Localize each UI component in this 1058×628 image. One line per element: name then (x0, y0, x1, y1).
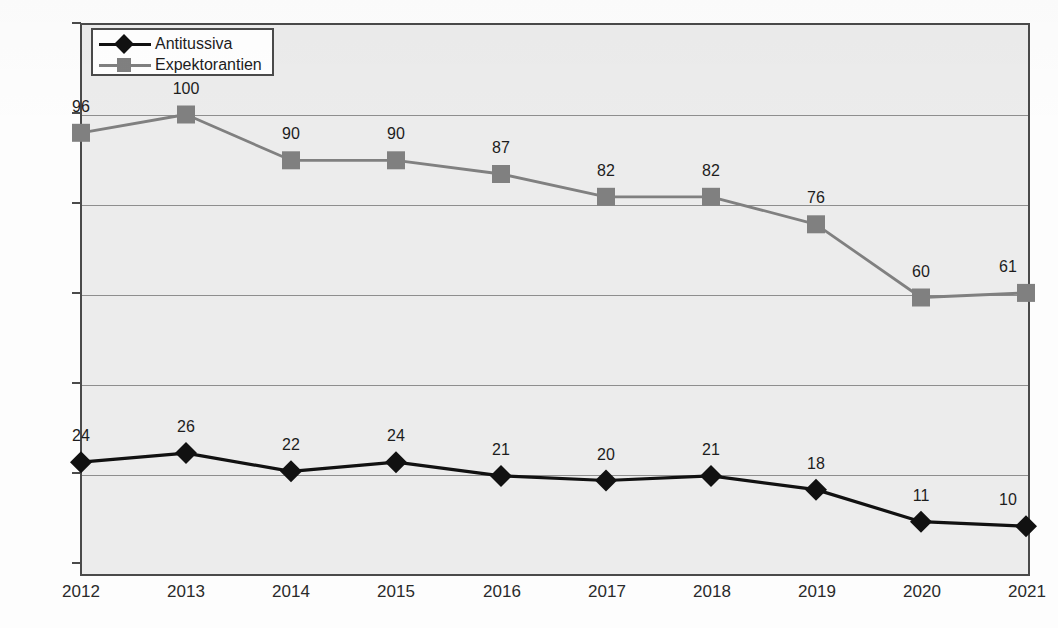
data-value-label: 24 (41, 428, 121, 444)
data-value-label: 76 (776, 190, 856, 206)
legend-swatch-antitussiva (99, 34, 151, 54)
data-value-label: 82 (671, 163, 751, 179)
square-marker-icon[interactable] (282, 151, 300, 169)
square-marker-icon[interactable] (702, 188, 720, 206)
data-value-label: 24 (356, 428, 436, 444)
data-value-label: 22 (251, 437, 331, 453)
square-marker-icon[interactable] (387, 151, 405, 169)
diamond-marker-icon[interactable] (175, 442, 197, 464)
square-marker-icon[interactable] (912, 289, 930, 307)
diamond-marker-icon[interactable] (385, 451, 407, 473)
square-marker-icon[interactable] (807, 215, 825, 233)
data-value-label: 60 (881, 264, 961, 280)
diamond-marker-icon[interactable] (280, 460, 302, 482)
data-value-label: 96 (41, 99, 121, 115)
data-value-label: 82 (566, 163, 646, 179)
diamond-marker-icon[interactable] (490, 465, 512, 487)
legend-label-antitussiva: Antitussiva (151, 36, 232, 52)
data-value-label: 87 (461, 140, 541, 156)
square-marker-icon[interactable] (492, 165, 510, 183)
legend: Antitussiva Expektorantien (91, 28, 274, 76)
diamond-marker-icon[interactable] (1015, 515, 1037, 537)
data-value-label: 100 (146, 81, 226, 97)
legend-swatch-expektorantien (99, 55, 151, 75)
square-marker-icon[interactable] (1017, 284, 1035, 302)
diamond-marker-icon[interactable] (910, 511, 932, 533)
square-marker-icon (117, 58, 131, 72)
data-value-label: 90 (251, 126, 331, 142)
data-value-label: 10 (968, 492, 1048, 508)
legend-label-expektorantien: Expektorantien (151, 57, 262, 73)
legend-item-antitussiva[interactable]: Antitussiva (99, 33, 266, 54)
data-value-label: 90 (356, 126, 436, 142)
data-value-label: 21 (461, 442, 541, 458)
data-value-label: 18 (776, 456, 856, 472)
diamond-marker-icon[interactable] (805, 479, 827, 501)
diamond-marker-icon (114, 34, 134, 54)
diamond-marker-icon[interactable] (700, 465, 722, 487)
square-marker-icon[interactable] (177, 106, 195, 124)
data-value-label: 21 (671, 442, 751, 458)
data-value-label: 26 (146, 419, 226, 435)
square-marker-icon[interactable] (597, 188, 615, 206)
square-marker-icon[interactable] (72, 124, 90, 142)
diamond-marker-icon[interactable] (70, 451, 92, 473)
diamond-marker-icon[interactable] (595, 470, 617, 492)
chart-figure: 120 100 80 60 40 20 0 (Mio. DDD) 2012 20… (0, 0, 1058, 628)
data-value-label: 11 (881, 488, 961, 504)
data-value-label: 20 (566, 447, 646, 463)
legend-item-expektorantien[interactable]: Expektorantien (99, 54, 266, 75)
data-value-label: 61 (968, 259, 1048, 275)
